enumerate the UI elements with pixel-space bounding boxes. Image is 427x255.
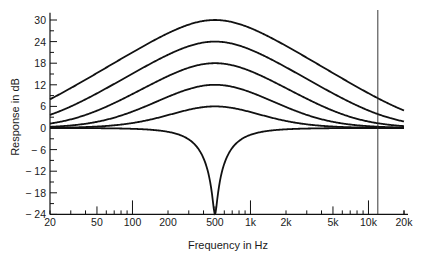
y-tick-label: 6 — [40, 100, 46, 112]
y-tick-label: 12 — [34, 79, 46, 91]
x-tick-label: 5k — [327, 216, 339, 228]
y-tick-label: − 18 — [25, 187, 46, 199]
y-tick-label: − 12 — [25, 165, 46, 177]
y-tick-label: 0 — [40, 122, 46, 134]
x-tick-label: 100 — [124, 216, 142, 228]
x-tick-label: 20k — [396, 216, 414, 228]
curve-3 — [50, 85, 404, 128]
y-axis-label: Response in dB — [9, 78, 21, 156]
curve-1 — [50, 42, 404, 122]
y-tick-label: 30 — [34, 14, 46, 26]
x-tick-label: 2k — [280, 216, 292, 228]
curve-2 — [50, 63, 404, 126]
x-tick-label: 50 — [91, 216, 103, 228]
y-tick-label: 24 — [34, 36, 46, 48]
y-axis-ticks: 3024181260− 6− 12− 18− 24 — [25, 14, 57, 220]
response-curves — [50, 20, 404, 214]
y-tick-label: 18 — [34, 57, 46, 69]
x-tick-label: 1k — [245, 216, 257, 228]
y-tick-label: − 6 — [31, 144, 46, 156]
y-tick-label: − 24 — [25, 208, 46, 220]
curve-0 — [50, 20, 404, 111]
x-tick-label: 200 — [159, 216, 177, 228]
curve-5 — [50, 128, 404, 214]
x-axis-label: Frequency in Hz — [188, 239, 268, 251]
x-tick-label: 10k — [360, 216, 378, 228]
response-chart: 3024181260− 6− 12− 18− 24 20501002005001… — [0, 0, 427, 255]
x-tick-label: 20 — [44, 216, 56, 228]
x-tick-label: 500 — [206, 216, 224, 228]
